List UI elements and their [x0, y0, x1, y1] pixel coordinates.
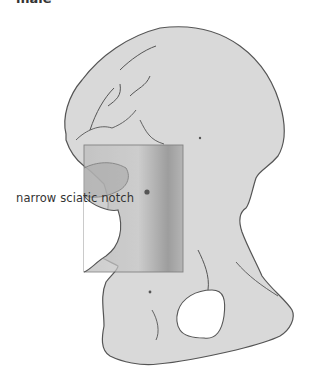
- narrow-sciatic-notch-label: narrow sciatic notch: [16, 191, 134, 205]
